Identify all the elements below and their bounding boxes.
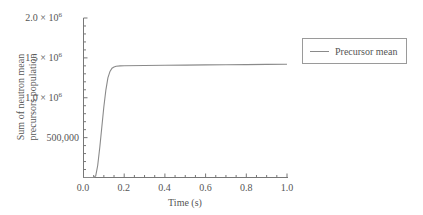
y-tick-label-2m: 2.0 × 106 xyxy=(25,11,62,23)
x-tick-marks xyxy=(84,174,288,178)
y-tick-label-500k: 500,000 xyxy=(47,132,80,143)
x-tick-label: 0.0 xyxy=(77,182,90,193)
x-tick-label: 0.8 xyxy=(240,182,253,193)
y-tick-label-1m: 1.0 × 106 xyxy=(25,91,62,103)
legend: Precursor mean xyxy=(302,38,407,64)
y-tick-marks xyxy=(84,18,88,178)
x-tick-label: 1.0 xyxy=(281,182,294,193)
legend-line-swatch-icon xyxy=(310,51,329,52)
line-chart: Sum of neutron mean precursors populatio… xyxy=(0,0,423,215)
x-tick-label: 0.6 xyxy=(199,182,212,193)
x-axis-title: Time (s) xyxy=(168,197,202,209)
y-axis-title-line1: Sum of neutron mean xyxy=(15,54,26,140)
x-tick-label: 0.2 xyxy=(118,182,131,193)
precursor-mean-line xyxy=(84,64,288,177)
legend-label: Precursor mean xyxy=(335,46,397,57)
y-tick-label-1.5m: 1.5 × 106 xyxy=(25,51,62,63)
x-tick-labels: 0.0 0.2 0.4 0.6 0.8 1.0 xyxy=(77,182,294,193)
x-tick-label: 0.4 xyxy=(158,182,171,193)
